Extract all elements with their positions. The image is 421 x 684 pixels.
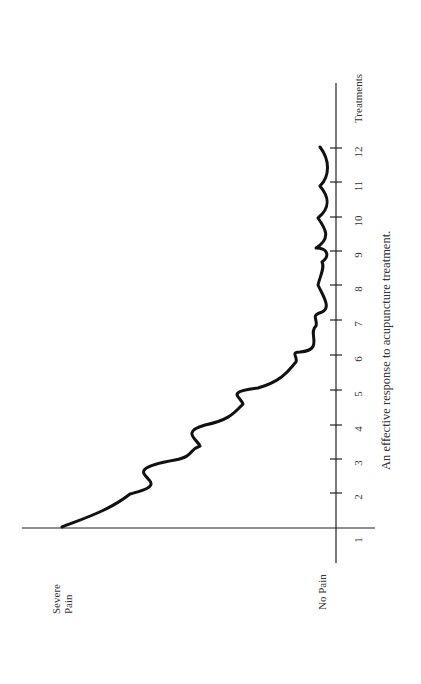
tick-label: 2 [352, 494, 364, 500]
tick-label: 7 [352, 321, 364, 327]
tick-label: 10 [352, 215, 364, 227]
tick-label: 12 [352, 147, 364, 158]
pain-chart: 1 2 3 4 5 6 7 8 9 10 11 12 Treatments Se… [0, 0, 421, 684]
severe-pain-label: Severe Pain [50, 581, 74, 614]
pain-curve [62, 147, 328, 527]
severe-label-line1: Severe [50, 584, 62, 614]
treatments-label: Treatments [352, 74, 364, 123]
no-pain-label: No Pain [316, 574, 328, 610]
tick-label: 9 [352, 252, 364, 258]
tick-label: 4 [352, 426, 364, 432]
tick-label: 1 [352, 537, 364, 543]
tick-labels: 1 2 3 4 5 6 7 8 9 10 11 12 [352, 147, 364, 543]
tick-label: 6 [352, 356, 364, 362]
tick-label: 3 [352, 460, 364, 466]
severe-label-line2: Pain [62, 594, 74, 614]
chart-caption: An effective response to acupuncture tre… [379, 231, 393, 470]
tick-label: 11 [352, 181, 364, 192]
tick-label: 5 [352, 391, 364, 397]
tick-label: 8 [352, 286, 364, 292]
